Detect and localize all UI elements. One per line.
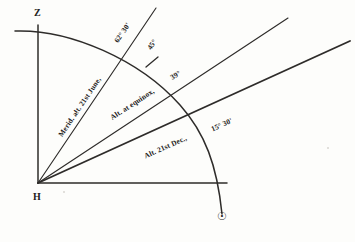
paper-speck [327, 147, 329, 149]
sun-symbol: ☉ [217, 211, 227, 222]
ray-equinox [38, 18, 288, 183]
diagram-svg [0, 0, 355, 242]
celestial-arc [15, 31, 222, 214]
horizon-point-label: H [33, 192, 41, 202]
diagram-canvas: Z H ☉ Merid. alt. 21st June, 62° 30' Alt… [0, 0, 355, 242]
zenith-point-label: Z [34, 8, 41, 18]
ray-december [38, 41, 350, 183]
paper-speck [77, 112, 79, 114]
forty-five-degree-tick [146, 57, 158, 67]
paper-speck [63, 191, 65, 193]
